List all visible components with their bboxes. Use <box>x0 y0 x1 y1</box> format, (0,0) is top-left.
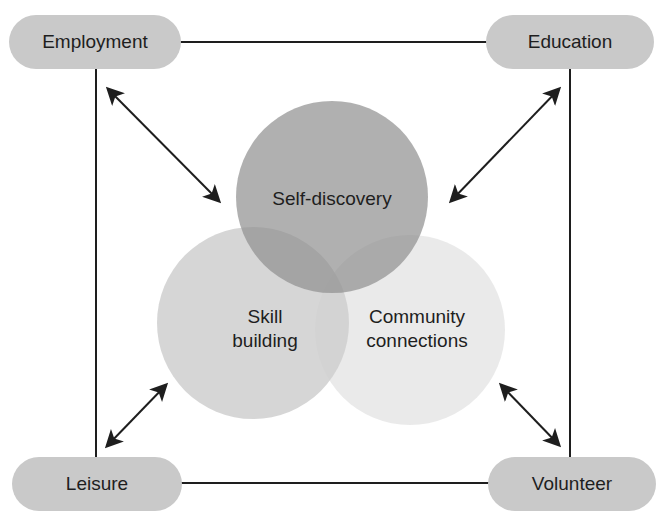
arrow-volunteer <box>501 385 559 445</box>
venn-label-self-discovery: Self-discovery <box>252 187 412 211</box>
arrow-leisure <box>107 385 166 446</box>
node-education: Education <box>486 15 654 69</box>
node-volunteer: Volunteer <box>488 457 656 511</box>
node-leisure-label: Leisure <box>66 473 128 495</box>
venn-label-skill-line1: Skill <box>220 305 310 329</box>
arrow-education <box>451 89 559 201</box>
node-employment-label: Employment <box>42 31 148 53</box>
node-education-label: Education <box>528 31 613 53</box>
venn-label-community-line1: Community <box>352 305 482 329</box>
venn-label-skill-building: Skill building <box>220 305 310 353</box>
diagram-canvas <box>0 0 664 523</box>
arrow-employment <box>108 89 219 201</box>
venn-label-skill-line2: building <box>220 329 310 353</box>
node-leisure: Leisure <box>12 457 182 511</box>
node-employment: Employment <box>9 15 181 69</box>
venn-label-community-line2: connections <box>352 329 482 353</box>
node-volunteer-label: Volunteer <box>532 473 612 495</box>
venn-diagram <box>157 101 505 425</box>
venn-label-community-connections: Community connections <box>352 305 482 353</box>
